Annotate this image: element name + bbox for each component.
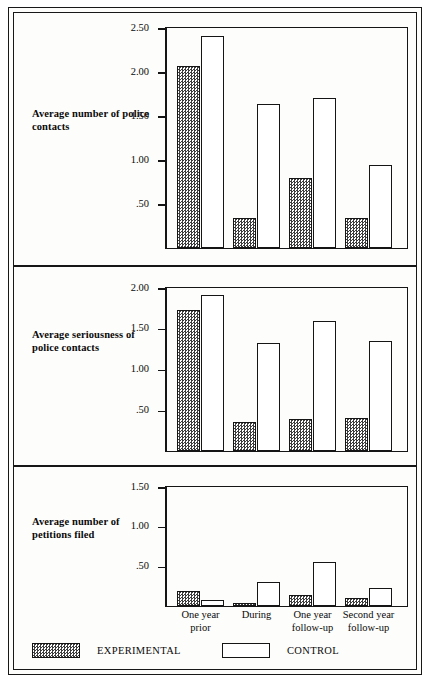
bar-experimental-0	[177, 310, 200, 451]
bar-control-3	[369, 588, 392, 606]
panel-2-x-axis	[165, 451, 407, 453]
y-tick-1-3: 1.00	[158, 160, 165, 162]
panel-petitions: Average number of petitions filed 1.501.…	[14, 465, 416, 673]
y-tick-3-1: 1.00	[158, 527, 165, 529]
y-tick-label: .50	[136, 559, 149, 573]
y-tick-label: .50	[136, 403, 149, 417]
y-tick-1-4: .50	[158, 204, 165, 206]
bar-control-1	[257, 582, 280, 606]
panel-3-plot-area: 1.501.00.50	[165, 486, 408, 607]
bar-control-1	[257, 104, 280, 248]
y-tick-3-2: .50	[158, 567, 165, 569]
y-tick-label: 2.00	[131, 65, 149, 79]
bar-control-0	[201, 600, 224, 606]
y-tick-label: 2.50	[131, 21, 149, 35]
y-tick-2-3: .50	[158, 411, 165, 413]
figure-outer-frame: Average number of police contacts 2.502.…	[8, 7, 422, 675]
bar-experimental-3	[345, 218, 368, 247]
y-tick-label: 1.50	[131, 480, 149, 494]
legend-item-control: CONTROL	[222, 643, 339, 658]
bar-experimental-3	[345, 418, 368, 451]
bar-experimental-2	[289, 419, 312, 450]
panel-seriousness: Average seriousness of police contacts 2…	[14, 265, 416, 465]
y-tick-1-2: 1.50	[158, 116, 165, 118]
panel-1-y-axis	[165, 28, 167, 249]
panel-3-y-axis	[165, 487, 167, 607]
bar-experimental-3	[345, 598, 368, 606]
y-tick-label: 1.00	[131, 519, 149, 533]
bar-control-2	[313, 321, 336, 451]
y-tick-label: 1.00	[131, 153, 149, 167]
y-tick-1-0: 2.50	[158, 28, 165, 30]
bar-control-3	[369, 341, 392, 451]
bar-experimental-2	[289, 178, 312, 248]
y-tick-label: 1.50	[131, 109, 149, 123]
y-tick-2-0: 2.00	[158, 288, 165, 290]
bar-experimental-1	[233, 603, 256, 605]
bar-control-0	[201, 36, 224, 248]
bar-control-3	[369, 165, 392, 248]
y-tick-3-0: 1.50	[158, 487, 165, 489]
legend-item-experimental: EXPERIMENTAL	[32, 643, 181, 658]
bar-experimental-0	[177, 66, 200, 248]
x-axis-label-3: Second year follow-up	[329, 609, 409, 634]
y-tick-2-1: 1.50	[158, 329, 165, 331]
legend-swatch-control	[222, 643, 270, 658]
y-tick-1-1: 2.00	[158, 72, 165, 74]
y-tick-label: .50	[136, 197, 149, 211]
panel-police-contacts: Average number of police contacts 2.502.…	[14, 13, 416, 265]
panel-2-y-axis	[165, 288, 167, 452]
legend-label-experimental: EXPERIMENTAL	[97, 645, 181, 656]
panel-1-x-axis	[165, 248, 407, 250]
bar-experimental-1	[233, 218, 256, 247]
figure-inner-frame: Average number of police contacts 2.502.…	[13, 12, 417, 670]
bar-control-0	[201, 295, 224, 450]
panel-1-plot-area: 2.502.001.501.00.50	[165, 27, 408, 249]
bar-control-1	[257, 343, 280, 450]
y-tick-label: 2.00	[131, 281, 149, 295]
y-tick-label: 1.00	[131, 362, 149, 376]
panel-2-plot-area: 2.001.501.00.50	[165, 287, 408, 452]
legend-swatch-experimental	[32, 643, 80, 658]
bar-experimental-0	[177, 591, 200, 605]
y-tick-2-2: 1.00	[158, 370, 165, 372]
bar-control-2	[313, 562, 336, 605]
y-tick-label: 1.50	[131, 321, 149, 335]
bar-control-2	[313, 98, 336, 248]
panel-3-x-axis	[165, 606, 407, 608]
legend-label-control: CONTROL	[287, 645, 339, 656]
bar-experimental-1	[233, 422, 256, 451]
bar-experimental-2	[289, 595, 312, 605]
